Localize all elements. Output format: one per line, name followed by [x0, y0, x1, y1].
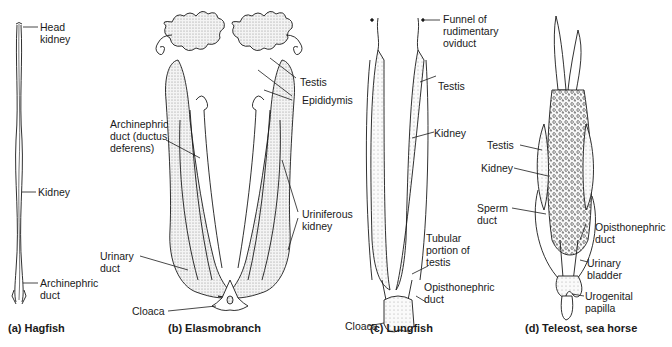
lungfish-drawing: [366, 18, 428, 332]
label-urogenital-papilla: Urogenital papilla: [585, 290, 633, 314]
elasmobranch-drawing: [156, 11, 302, 310]
label-uriniferous-kidney: Uriniferous kidney: [302, 208, 353, 232]
label-testis: Testis: [487, 139, 514, 151]
label-kidney: Kidney: [481, 162, 513, 174]
label-funnel-rudimentary-oviduct: Funnel of rudimentary oviduct: [443, 13, 498, 49]
label-sperm-duct: Sperm duct: [477, 202, 508, 226]
label-testis: Testis: [300, 76, 327, 88]
hagfish-kidney-drawing: [12, 23, 26, 305]
label-head-kidney: Head kidney: [40, 21, 70, 45]
label-urinary-bladder: Urinary bladder: [587, 257, 622, 281]
caption-teleost-sea-horse: (d) Teleost, sea horse: [525, 322, 637, 334]
label-archinephric-duct-deferens: Archinephric duct (ductus deferens): [110, 118, 168, 154]
label-urinary-duct: Urinary duct: [100, 250, 134, 274]
diagram-canvas: [0, 0, 672, 347]
label-kidney: Kidney: [38, 186, 70, 198]
label-opisthonephric-duct: Opisthonephric duct: [595, 221, 666, 245]
label-archinephric-duct: Archinephric duct: [40, 277, 98, 301]
caption-hagfish: (a) Hagfish: [8, 322, 65, 334]
label-epididymis: Epididymis: [302, 94, 353, 106]
label-opisthonephric-duct: Opisthonephric duct: [424, 281, 495, 305]
label-tubular-portion-testis: Tubular portion of testis: [426, 232, 470, 268]
label-cloaca: Cloaca: [132, 305, 165, 317]
caption-elasmobranch: (b) Elasmobranch: [168, 322, 261, 334]
caption-lungfish: (c) Lungfish: [370, 322, 433, 334]
hagfish-leader-lines: [22, 27, 38, 283]
label-kidney: Kidney: [434, 127, 466, 139]
label-testis: Testis: [438, 80, 465, 92]
